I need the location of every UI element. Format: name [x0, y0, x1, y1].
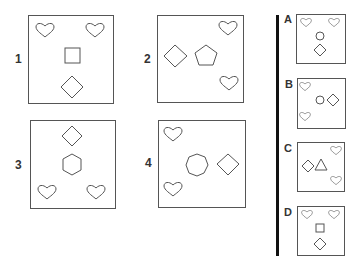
- diamond-icon: [327, 94, 339, 106]
- heart-icon: [220, 76, 238, 90]
- heart-icon: [331, 176, 342, 184]
- heart-icon: [86, 23, 104, 37]
- heart-icon: [300, 112, 311, 120]
- heart-icon: [219, 21, 237, 35]
- heart-icon: [38, 185, 56, 199]
- square-icon: [65, 48, 80, 63]
- panel-2-shapes: [164, 21, 238, 90]
- diamond-icon: [164, 45, 187, 67]
- circle-icon: [316, 32, 324, 40]
- triangle-icon: [315, 159, 327, 170]
- option-a-shapes: [301, 18, 340, 56]
- diamond-icon: [302, 160, 314, 172]
- heart-icon: [329, 210, 340, 218]
- diamond-icon: [61, 76, 83, 98]
- heart-icon: [301, 18, 312, 26]
- heart-icon: [329, 18, 340, 26]
- heart-icon: [331, 146, 342, 154]
- heart-icon: [302, 210, 313, 218]
- circle-icon: [316, 96, 324, 104]
- diamond-icon: [217, 154, 239, 175]
- option-c-shapes: [302, 146, 341, 184]
- panel-1-shapes: [36, 23, 104, 98]
- diamond-icon: [62, 126, 82, 146]
- option-d-shapes: [302, 210, 340, 250]
- heart-icon: [300, 82, 311, 90]
- heart-icon: [164, 182, 182, 196]
- heart-icon: [164, 127, 182, 141]
- option-b-shapes: [300, 82, 339, 120]
- diamond-icon: [314, 238, 326, 250]
- heart-icon: [36, 23, 54, 37]
- heart-icon: [87, 185, 105, 199]
- panel-4-shapes: [164, 127, 239, 196]
- square-icon: [316, 224, 324, 232]
- panel-3-shapes: [38, 126, 105, 199]
- hexagon-icon: [63, 154, 81, 175]
- heptagon-icon: [186, 154, 208, 176]
- diamond-icon: [314, 44, 326, 56]
- pentagon-icon: [195, 45, 217, 65]
- shapes-overlay: [0, 0, 361, 256]
